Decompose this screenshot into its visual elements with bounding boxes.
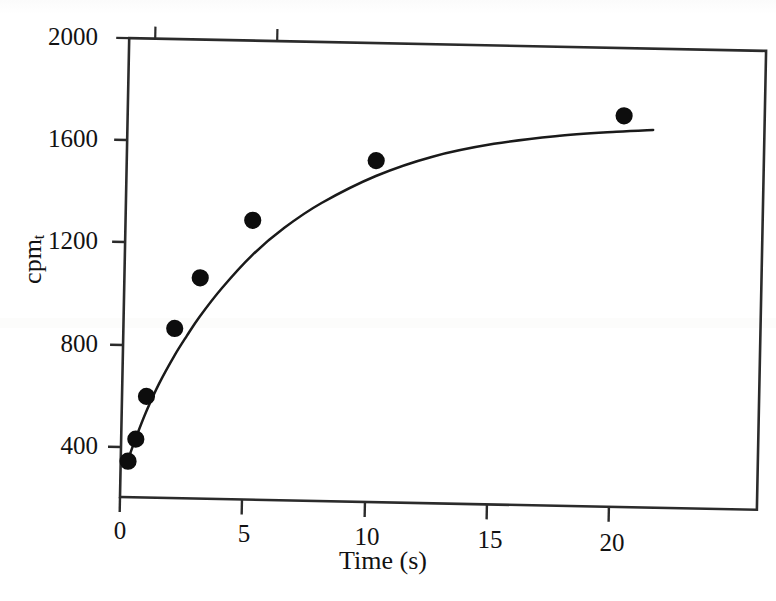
x-tick-label-5: 5 (216, 521, 272, 546)
data-point-group (119, 97, 633, 480)
chart-svg (0, 0, 776, 601)
data-point (367, 152, 385, 170)
data-point (191, 269, 209, 287)
data-point (138, 388, 156, 406)
data-point (615, 107, 633, 125)
data-point (166, 320, 184, 338)
y-axis-title: cpmt (18, 204, 49, 314)
data-point (244, 212, 262, 230)
y-axis-title-wrapper: cpmt (8, 210, 58, 320)
y-tick-label-400: 400 (12, 433, 98, 458)
axis-box (120, 38, 766, 510)
plot-area (0, 0, 776, 601)
data-point (127, 430, 145, 448)
fit-curve (128, 120, 653, 470)
y-axis-title-subscript: t (30, 235, 47, 239)
axis-frame (120, 38, 766, 510)
x-axis-title: Time (s) (268, 546, 498, 576)
x-tick-label-20: 20 (584, 530, 640, 555)
y-tick-label-2000: 2000 (12, 24, 98, 49)
y-tick-label-1600: 1600 (12, 126, 98, 151)
figure-canvas: 2000 1600 1200 800 400 0 5 10 15 20 cpmt… (0, 0, 776, 601)
y-axis-title-base: cpm (18, 239, 47, 284)
x-tick-label-0: 0 (92, 518, 148, 543)
y-tick-label-800: 800 (12, 331, 98, 356)
